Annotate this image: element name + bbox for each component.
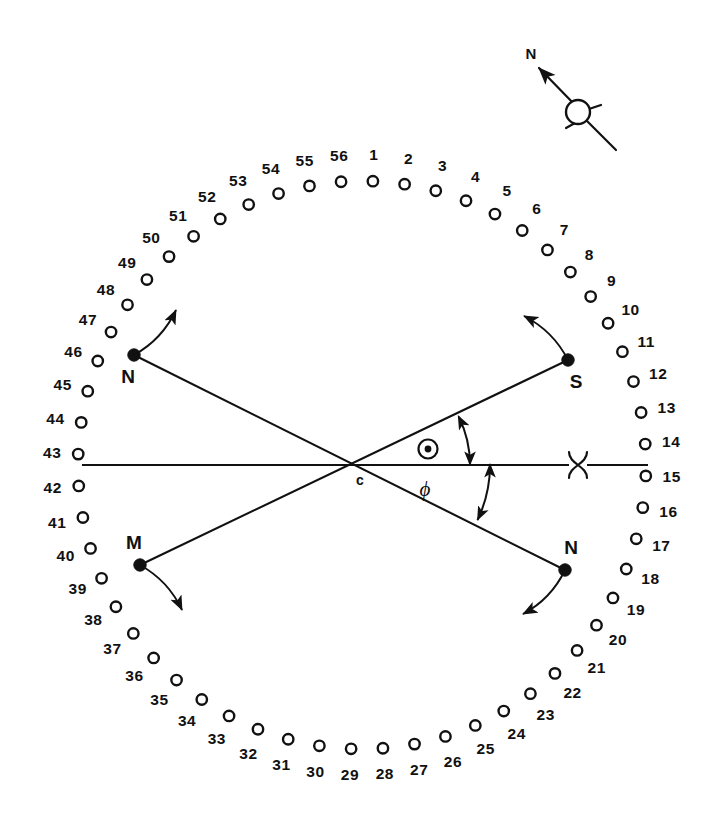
aubrey-hole-number: 40 — [56, 547, 74, 564]
aubrey-hole — [304, 181, 314, 191]
aubrey-hole — [74, 481, 84, 491]
aubrey-hole-number: 48 — [97, 281, 115, 298]
aubrey-hole-number: 39 — [69, 580, 87, 597]
aubrey-hole-number: 49 — [118, 254, 136, 271]
aubrey-hole — [631, 534, 641, 544]
aubrey-hole-number: 24 — [508, 725, 526, 742]
compass-spoke-right — [589, 105, 601, 109]
aubrey-hole — [346, 744, 356, 754]
aubrey-hole-number: 8 — [585, 246, 594, 263]
aubrey-hole-number: 19 — [627, 601, 645, 618]
aubrey-hole-number: 5 — [503, 182, 512, 199]
aubrey-hole — [517, 225, 527, 235]
aubrey-hole-number: 17 — [652, 537, 670, 554]
aubrey-hole — [640, 439, 650, 449]
aubrey-hole-number: 51 — [169, 207, 187, 224]
marker-n-upper-left-label: N — [121, 366, 135, 387]
aubrey-hole — [76, 417, 86, 427]
aubrey-hole — [591, 620, 601, 630]
aubrey-hole-number: 6 — [532, 200, 541, 217]
alignment-markers: NSMN — [121, 310, 582, 614]
marker-s-upper-right-label: S — [570, 371, 583, 392]
aubrey-hole-number: 44 — [46, 410, 64, 427]
aubrey-hole — [409, 739, 419, 749]
aubrey-hole — [461, 196, 471, 206]
aubrey-hole-number: 35 — [150, 691, 168, 708]
aubrey-hole — [603, 318, 613, 328]
aubrey-hole — [188, 231, 198, 241]
aubrey-hole — [96, 573, 106, 583]
aubrey-hole-number: 9 — [607, 272, 616, 289]
aubrey-hole-number: 3 — [438, 157, 447, 174]
aubrey-hole-number: 52 — [198, 188, 216, 205]
aubrey-hole — [499, 706, 509, 716]
north-compass-indicator: N — [526, 45, 616, 150]
aubrey-hole — [314, 741, 324, 751]
aubrey-hole-number: 12 — [649, 365, 667, 382]
aubrey-hole-number: 32 — [239, 745, 257, 762]
aubrey-hole-number: 55 — [295, 152, 313, 169]
aubrey-hole — [621, 564, 631, 574]
angle-arc-upper — [459, 417, 470, 465]
sun-symbol — [419, 440, 438, 459]
aubrey-hole — [283, 734, 293, 744]
marker-m-lower-left-direction-arrow — [140, 565, 182, 610]
aubrey-hole — [470, 720, 480, 730]
aubrey-hole — [572, 645, 582, 655]
aubrey-hole-number: 27 — [410, 761, 428, 778]
figure-root: 1234567891011121314151617181920212223242… — [0, 0, 714, 821]
center-point-label: c — [356, 472, 364, 488]
aubrey-hole — [85, 543, 95, 553]
aubrey-hole-number: 1 — [369, 146, 378, 163]
aubrey-hole — [542, 245, 552, 255]
aubrey-hole — [399, 179, 409, 189]
marker-n-lower-right-direction-arrow — [523, 570, 565, 614]
aubrey-hole-number: 37 — [103, 640, 121, 657]
aubrey-hole-number: 23 — [537, 706, 555, 723]
aubrey-hole-number: 30 — [306, 763, 324, 780]
aubrey-hole-number: 56 — [330, 147, 348, 164]
aubrey-hole — [636, 407, 646, 417]
marker-s-upper-right-direction-arrow — [524, 316, 568, 360]
aubrey-hole-number: 38 — [84, 611, 102, 628]
diagram-canvas: 1234567891011121314151617181920212223242… — [0, 0, 714, 821]
aubrey-hole — [550, 668, 560, 678]
aubrey-hole-number: 46 — [64, 343, 82, 360]
aubrey-hole — [78, 512, 88, 522]
aubrey-hole — [73, 449, 83, 459]
aubrey-hole-number: 7 — [560, 221, 569, 238]
aubrey-hole — [122, 300, 132, 310]
sun-symbol-center-dot — [425, 446, 432, 453]
phi-angle-label: ϕ — [420, 477, 431, 501]
aubrey-hole-number: 43 — [43, 444, 61, 461]
aubrey-hole-number: 13 — [657, 399, 675, 416]
aubrey-hole-number: 34 — [178, 712, 196, 729]
aubrey-hole — [490, 209, 500, 219]
aubrey-hole — [93, 356, 103, 366]
aubrey-hole-number: 11 — [637, 333, 655, 350]
aubrey-hole-number: 25 — [476, 740, 494, 757]
aubrey-hole — [440, 731, 450, 741]
aubrey-hole — [83, 386, 93, 396]
aubrey-hole-number: 42 — [44, 479, 62, 496]
aubrey-hole — [171, 675, 181, 685]
aubrey-hole — [378, 743, 388, 753]
aubrey-hole — [106, 327, 116, 337]
aubrey-hole-number: 26 — [444, 753, 462, 770]
aubrey-hole-number: 21 — [588, 659, 606, 676]
angle-arcs — [459, 417, 490, 520]
compass-tail-line — [586, 120, 616, 150]
angle-arc-lower — [478, 465, 491, 520]
aubrey-hole-number: 47 — [79, 311, 97, 328]
aubrey-hole — [148, 653, 158, 663]
aubrey-hole-number: 50 — [142, 229, 160, 246]
aubrey-hole — [111, 602, 121, 612]
aubrey-hole — [368, 176, 378, 186]
compass-north-label: N — [526, 45, 537, 62]
aubrey-hole — [565, 267, 575, 277]
aubrey-hole — [641, 471, 651, 481]
aubrey-hole-number: 10 — [621, 301, 639, 318]
marker-n-lower-right-label: N — [564, 537, 578, 558]
aubrey-hole-number: 41 — [48, 514, 66, 531]
aubrey-hole-number: 18 — [641, 570, 659, 587]
